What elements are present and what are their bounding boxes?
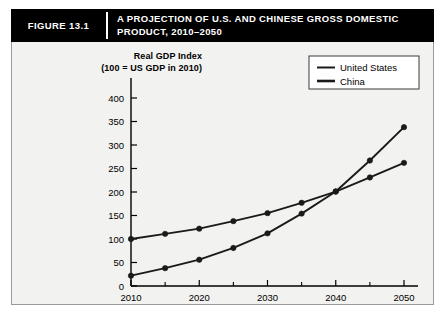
figure-title: A PROJECTION OF U.S. AND CHINESE GROSS D… [108, 9, 434, 42]
data-point [401, 160, 406, 165]
figure-container: FIGURE 13.1 A PROJECTION OF U.S. AND CHI… [11, 9, 434, 305]
y-axis-tick-label: 150 [108, 210, 124, 221]
data-point [162, 265, 167, 270]
plot-area: Real GDP Index (100 = US GDP in 2010) 05… [12, 42, 433, 304]
series-line-united-states [131, 163, 404, 239]
figure-title-bar: FIGURE 13.1 A PROJECTION OF U.S. AND CHI… [11, 9, 434, 42]
data-point [128, 236, 133, 241]
data-point [128, 273, 133, 278]
y-axis-tick-label: 350 [108, 116, 124, 127]
y-axis-tick-label: 100 [108, 234, 124, 245]
x-axis-tick-label: 2040 [325, 292, 346, 303]
data-point [401, 124, 406, 129]
y-axis-tick-label: 250 [108, 163, 124, 174]
data-point [367, 158, 372, 163]
data-point [231, 218, 236, 223]
x-axis-tick-label: 2020 [189, 292, 210, 303]
y-axis-tick-label: 400 [108, 93, 124, 104]
y-axis-tick-label: 300 [108, 140, 124, 151]
data-point [333, 189, 338, 194]
series-line-china [131, 127, 404, 276]
data-point [299, 200, 304, 205]
data-point [197, 226, 202, 231]
chart-panel: Real GDP Index (100 = US GDP in 2010) 05… [11, 42, 434, 305]
y-axis-tick-label: 0 [119, 281, 124, 292]
y-axis-tick-label: 50 [113, 257, 124, 268]
figure-number-label: FIGURE 13.1 [11, 9, 106, 42]
data-point [299, 211, 304, 216]
data-point [231, 245, 236, 250]
figure-title-line-2: PRODUCT, 2010–2050 [117, 26, 428, 39]
data-point [265, 231, 270, 236]
data-point [265, 210, 270, 215]
line-chart: 0501001502002503003504002010202020302040… [12, 42, 433, 303]
legend-label-united-states: United States [340, 62, 397, 73]
x-axis-tick-label: 2050 [393, 292, 414, 303]
legend-label-china: China [340, 76, 366, 87]
data-point [367, 175, 372, 180]
y-axis-tick-label: 200 [108, 187, 124, 198]
x-axis-tick-label: 2030 [257, 292, 278, 303]
data-point [162, 231, 167, 236]
x-axis-tick-label: 2010 [120, 292, 141, 303]
figure-title-line-1: A PROJECTION OF U.S. AND CHINESE GROSS D… [117, 13, 428, 26]
data-point [197, 257, 202, 262]
